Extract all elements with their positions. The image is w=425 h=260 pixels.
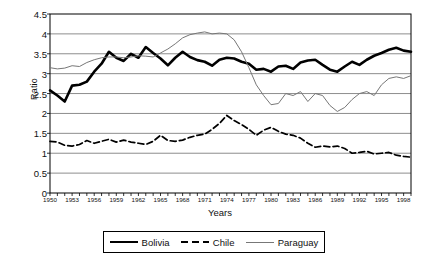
- x-tick-label: 1959: [109, 196, 123, 203]
- legend-line-glyph: [181, 241, 209, 243]
- x-axis-label: Years: [165, 207, 275, 218]
- x-tick-label: 1980: [264, 196, 278, 203]
- x-tick-label: 1989: [330, 196, 344, 203]
- dashed-swatch: [181, 238, 209, 246]
- legend-label: Bolivia: [142, 237, 170, 248]
- legend-item-chile: Chile: [181, 237, 235, 248]
- x-tick-label: 1986: [308, 196, 322, 203]
- legend-label: Paraguay: [278, 237, 319, 248]
- x-tick-label: 1953: [65, 196, 79, 203]
- x-tick-label: 1950: [43, 196, 57, 203]
- x-tick-label: 1968: [176, 196, 190, 203]
- legend-line-glyph: [246, 242, 274, 243]
- thick-solid-swatch: [110, 238, 138, 246]
- x-tick-label: 1971: [198, 196, 212, 203]
- x-axis-ticks: 1950195319561959196219651968197119741977…: [0, 0, 425, 205]
- plot-area: 00.511.522.533.544.5 1950195319561959196…: [0, 0, 425, 205]
- x-tick-label: 1962: [132, 196, 146, 203]
- legend-line-glyph: [110, 241, 138, 243]
- legend-item-paraguay: Paraguay: [246, 237, 319, 248]
- legend-item-bolivia: Bolivia: [110, 237, 170, 248]
- x-tick-label: 1995: [375, 196, 389, 203]
- legend-label: Chile: [213, 237, 235, 248]
- x-tick-label: 1956: [87, 196, 101, 203]
- x-tick-label: 1965: [154, 196, 168, 203]
- x-tick-label: 1992: [353, 196, 367, 203]
- x-tick-label: 1974: [220, 196, 234, 203]
- x-tick-label: 1977: [242, 196, 256, 203]
- x-tick-label: 1998: [397, 196, 411, 203]
- chart-figure: Ratio Years 00.511.522.533.544.5 1950195…: [0, 0, 425, 260]
- x-tick-label: 1983: [286, 196, 300, 203]
- thin-solid-swatch: [246, 238, 274, 246]
- chart-legend: BoliviaChileParaguay: [103, 231, 325, 253]
